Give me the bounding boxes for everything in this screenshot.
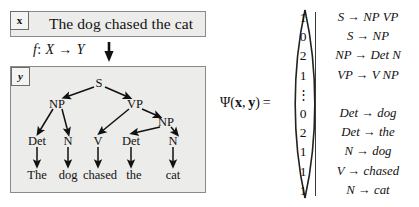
feature-vector-rule-labels: S → NP VP S → NP NP → Det N VP → V NP De… — [317, 8, 419, 200]
grammar-rule: N → cat — [317, 181, 419, 200]
psi-comma: , — [242, 95, 246, 110]
tree-node-det1: Det — [28, 134, 47, 148]
tree-node-np1: NP — [49, 97, 65, 111]
mapping-colon: : — [37, 42, 41, 57]
grammar-rule: Det → dog — [317, 104, 419, 123]
tree-node-s: S — [96, 76, 103, 90]
input-sentence-text: The dog chased the cat — [38, 12, 204, 36]
parse-tree-graphic: S NP VP NP Det N V Det N The dog chased … — [10, 66, 206, 193]
edge-s-vp — [105, 87, 128, 97]
tree-node-v: V — [93, 134, 102, 148]
grammar-rule: S → NP — [317, 27, 419, 46]
feature-map-label: Ψ(x, y) = — [220, 95, 271, 111]
tree-node-n2: N — [168, 134, 177, 148]
mapping-codomain-symbol: Y — [77, 42, 85, 57]
edge-np2-det — [134, 127, 160, 133]
edge-np-n — [62, 109, 68, 132]
down-arrow-icon — [104, 41, 114, 63]
mapping-domain-symbol: X — [46, 42, 55, 57]
grammar-rule: V → chased — [317, 162, 419, 181]
vector-divider — [315, 12, 316, 196]
input-variable-tag: x — [10, 11, 29, 30]
psi-equals: = — [263, 95, 271, 110]
tree-node-np2: NP — [158, 115, 174, 129]
tree-node-n1: N — [63, 134, 72, 148]
tree-leaf-dog: dog — [59, 168, 79, 182]
edge-s-np — [66, 87, 94, 97]
feature-vector-block: 1 0 2 1 ⋮ 0 2 1 1 1 S → NP VP S → NP NP … — [294, 8, 419, 200]
edge-vp-np — [142, 109, 158, 116]
edge-vp-v — [101, 109, 129, 132]
tree-node-det2: Det — [122, 134, 141, 148]
figure-root: x The dog chased the cat f: X → Y y — [0, 0, 419, 207]
tree-node-vp: VP — [127, 97, 143, 111]
psi-symbol: Ψ — [220, 95, 230, 110]
edge-np-det — [39, 109, 53, 132]
grammar-rule: S → NP VP — [317, 8, 419, 27]
mapping-arrow-glyph: → — [58, 42, 72, 57]
tree-leaf-cat: cat — [166, 168, 181, 182]
grammar-rule: Det → the — [317, 123, 419, 142]
tree-leaf-chased: chased — [83, 168, 118, 182]
tree-leaf-the2: the — [126, 168, 142, 182]
psi-close-paren: ) — [255, 95, 260, 110]
psi-arg-x: x — [235, 95, 242, 110]
mapping-label: f: X → Y — [33, 42, 85, 58]
grammar-rule: NP → Det N — [317, 46, 419, 65]
tree-leaf-the1: The — [27, 168, 47, 182]
grammar-rule: VP → V NP — [317, 66, 419, 85]
grammar-rule: N → dog — [317, 142, 419, 161]
